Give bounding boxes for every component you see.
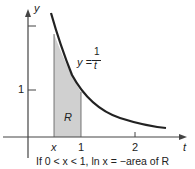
x-arrow-icon <box>179 134 187 140</box>
y-axis-label: y <box>34 2 40 14</box>
y-tick-1: 1 <box>18 83 24 95</box>
y-arrow-icon <box>25 9 31 17</box>
plot <box>0 0 195 169</box>
x-tick-2: 2 <box>132 141 138 153</box>
caption: If 0 < x < 1, ln x = −area of R <box>36 155 169 167</box>
region-label: R <box>64 111 72 123</box>
diagram: y t 1 x 1 2 R y = 1 t If 0 < x < 1, ln x… <box>0 0 195 169</box>
x-axis-label: t <box>183 141 186 153</box>
curve-num: 1 <box>94 46 100 57</box>
curve-label: y = <box>77 56 92 68</box>
x-tick-x: x <box>51 141 57 153</box>
curve-den: t <box>94 60 97 71</box>
x-tick-1: 1 <box>78 141 84 153</box>
